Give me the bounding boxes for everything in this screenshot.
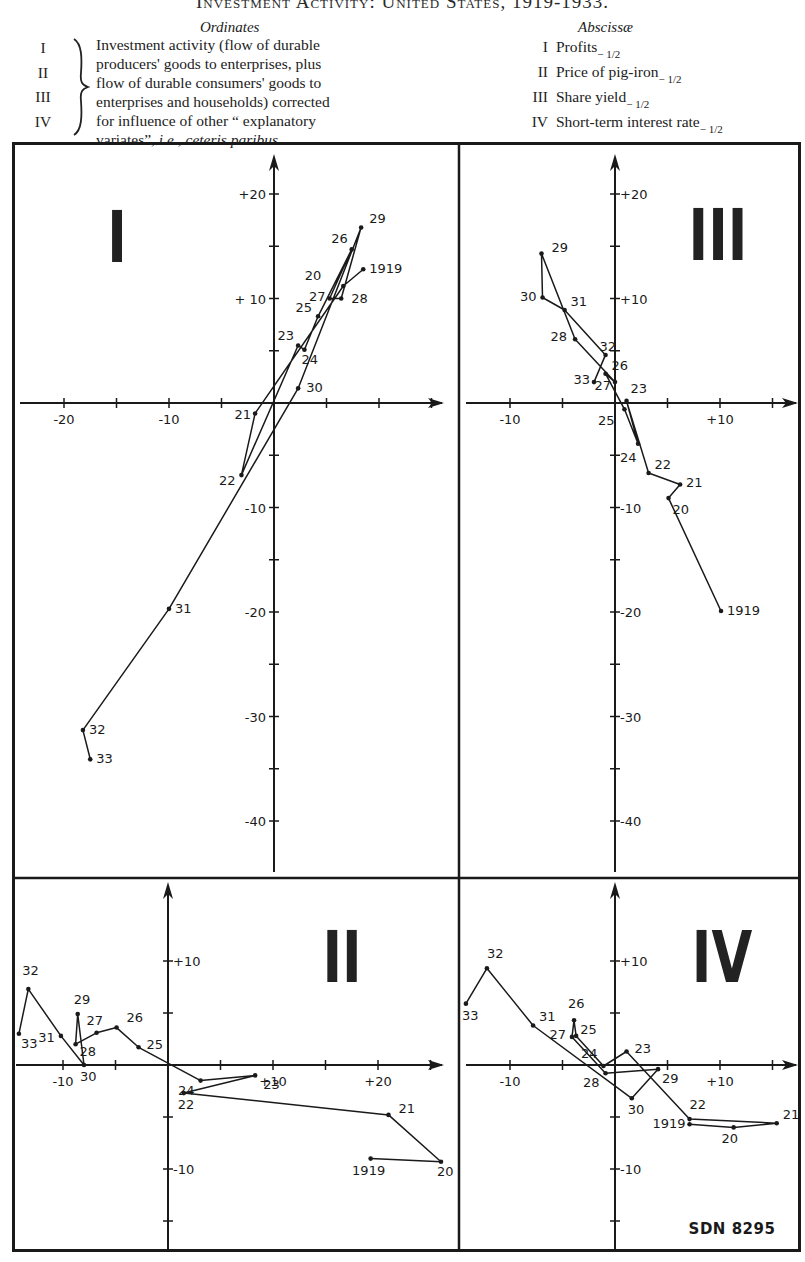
data-point xyxy=(88,757,93,762)
data-point xyxy=(26,987,31,992)
data-point-label: 23 xyxy=(635,1041,652,1056)
ordinate-numerals: I II III IV xyxy=(28,36,58,134)
y-tick-label: +10 xyxy=(620,292,647,307)
y-tick-label: -20 xyxy=(245,605,266,620)
data-point xyxy=(539,251,544,256)
data-point-label: 32 xyxy=(487,946,504,961)
data-point-label: 29 xyxy=(552,240,569,255)
data-point xyxy=(253,1073,258,1078)
data-point xyxy=(198,1078,203,1083)
data-point-label: 20 xyxy=(437,1164,454,1179)
legend: Ordinates Abscissæ I II III IV Investmen… xyxy=(0,17,805,139)
y-tick-label: + 10 xyxy=(234,292,266,307)
y-tick-label: -10 xyxy=(620,501,641,516)
data-point-label: 1919 xyxy=(369,261,402,276)
abscissa-lag: − 1/2 xyxy=(597,48,620,60)
abscissa-label: Profits xyxy=(556,38,597,55)
data-point-label: 25 xyxy=(598,413,615,428)
data-point-label: 29 xyxy=(369,211,386,226)
data-point xyxy=(666,496,671,501)
data-point-label: 1919 xyxy=(652,1116,685,1131)
y-tick-label: -30 xyxy=(620,710,641,725)
panel-I: -20-10-40-30-20-10+ 10+20I19192021222324… xyxy=(20,154,444,872)
abscissa-label: Share yield xyxy=(556,88,626,105)
panel-numeral: III xyxy=(689,194,748,277)
figure-code: SDN 8295 xyxy=(689,1220,776,1238)
ordinate-numeral: I xyxy=(28,36,58,61)
abscissa-numeral: I xyxy=(520,36,548,58)
data-point xyxy=(656,1067,661,1072)
abscissae-heading: Abscissæ xyxy=(578,17,633,37)
ordinate-description-line: flow of durable consumers' goods to xyxy=(96,73,446,92)
data-point xyxy=(81,728,86,733)
data-point xyxy=(562,308,567,313)
data-point-label: 32 xyxy=(600,339,617,354)
data-point-label: 1919 xyxy=(727,603,760,618)
data-point xyxy=(59,1034,64,1039)
data-point-label: 28 xyxy=(551,329,568,344)
data-point xyxy=(253,411,258,416)
data-point-label: 26 xyxy=(331,231,348,246)
panel-numeral: I xyxy=(107,196,127,279)
data-point-label: 29 xyxy=(662,1071,679,1086)
y-tick-label: -20 xyxy=(620,605,641,620)
data-point xyxy=(464,1001,469,1006)
data-point-label: 26 xyxy=(127,1010,144,1025)
data-point-label: 29 xyxy=(74,992,91,1007)
x-tick-label: +10 xyxy=(706,1074,733,1089)
y-tick-label: +10 xyxy=(620,954,647,969)
data-point-label: 27 xyxy=(594,378,611,393)
data-point xyxy=(75,1012,80,1017)
data-point-label: 25 xyxy=(147,1037,164,1052)
data-point-label: 26 xyxy=(568,996,585,1011)
data-point xyxy=(574,1034,579,1039)
data-point xyxy=(687,1117,692,1122)
data-point-label: 33 xyxy=(573,372,590,387)
abscissa-lag: − 1/2 xyxy=(626,98,649,110)
data-point xyxy=(624,399,629,404)
data-point xyxy=(296,343,301,348)
panel-IV: -10+10-10+10IV19192021222324252627282930… xyxy=(462,882,799,1250)
y-tick-label: -10 xyxy=(620,1162,641,1177)
data-point xyxy=(386,1113,391,1118)
data-point-label: 21 xyxy=(235,407,252,422)
abscissa-lag: − 1/2 xyxy=(700,123,723,135)
data-point-label: 31 xyxy=(539,1009,556,1024)
abscissa-numeral: II xyxy=(520,61,548,83)
data-point xyxy=(114,1025,119,1030)
x-tick-label: -10 xyxy=(158,412,179,427)
data-point-label: 30 xyxy=(628,1102,645,1117)
abscissa-lag: − 1/2 xyxy=(658,73,681,85)
data-point xyxy=(540,295,545,300)
data-point xyxy=(136,1045,141,1050)
abscissa-label: Price of pig-iron xyxy=(556,63,658,80)
chart-title: Investment Activity: United States, 1919… xyxy=(0,0,805,13)
data-point-label: 20 xyxy=(305,268,322,283)
data-point xyxy=(316,314,321,319)
data-point xyxy=(570,1035,575,1040)
data-point xyxy=(603,371,608,376)
data-point-label: 24 xyxy=(581,1046,598,1061)
outer-frame xyxy=(14,144,800,1251)
y-tick-label: -10 xyxy=(173,1162,194,1177)
ordinate-description: Investment activity (flow of durable pro… xyxy=(96,35,446,149)
panel-numeral: II xyxy=(322,916,361,999)
data-point xyxy=(624,1049,629,1054)
ordinate-numeral: II xyxy=(28,61,58,86)
data-point xyxy=(94,1030,99,1035)
data-point-label: 23 xyxy=(278,328,295,343)
panel-numeral: IV xyxy=(692,916,753,999)
y-tick-label: -10 xyxy=(245,501,266,516)
data-point xyxy=(630,1096,635,1101)
data-point xyxy=(73,1042,78,1047)
ordinate-numeral: III xyxy=(28,85,58,110)
x-tick-label: -20 xyxy=(53,412,74,427)
y-tick-label: -40 xyxy=(620,814,641,829)
abscissa-item: IIPrice of pig-iron− 1/2 xyxy=(520,61,723,86)
data-point-label: 30 xyxy=(306,380,323,395)
data-point-label: 27 xyxy=(309,289,326,304)
abscissa-item: IIIShare yield− 1/2 xyxy=(520,86,723,111)
abscissa-item: IVShort-term interest rate− 1/2 xyxy=(520,111,723,136)
data-point-label: 20 xyxy=(721,1131,738,1146)
data-point-label: 24 xyxy=(620,450,637,465)
